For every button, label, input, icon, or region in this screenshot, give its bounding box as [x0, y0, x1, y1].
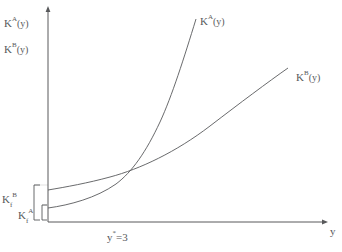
bracket-kfa — [42, 205, 47, 220]
curve-k-a — [48, 19, 196, 208]
curve-label-a-base: K — [200, 15, 208, 27]
kfa-superscript: A — [28, 207, 33, 215]
kfb-base: K — [2, 193, 10, 205]
ystar-value: =3 — [116, 231, 128, 243]
y-axis-arrowhead — [46, 6, 51, 12]
kfa-base: K — [18, 209, 26, 221]
cost-curves-plot — [0, 0, 342, 252]
curve-label-b-argument: (y) — [309, 72, 321, 83]
x-axis-label: y — [330, 226, 336, 237]
kfb-superscript: B — [12, 191, 17, 199]
figure-canvas: KA(y) KB(y) KA(y) KB(y) KfB KfA y*=3 y — [0, 0, 342, 252]
curve-label-k-a: KA(y) — [200, 12, 225, 28]
curve-k-b — [48, 68, 288, 190]
curve-label-k-b: KB(y) — [296, 68, 320, 84]
legend-item-k-a: KA(y) — [4, 14, 29, 30]
kfa-subscript: f — [26, 217, 28, 225]
x-axis-arrowhead — [322, 220, 328, 225]
legend-ka-base: K — [4, 17, 12, 29]
bracket-label-kfb: KfB — [2, 190, 17, 206]
x-axis-label-text: y — [330, 225, 336, 237]
x-tick-annotation-y-star: y*=3 — [107, 228, 128, 244]
curve-label-a-argument: (y) — [213, 16, 225, 27]
bracket-label-kfa: KfA — [18, 206, 33, 222]
legend-kb-base: K — [4, 43, 12, 55]
legend-ka-argument: (y) — [17, 18, 29, 29]
legend-item-k-b: KB(y) — [4, 40, 28, 56]
legend-kb-argument: (y) — [17, 44, 29, 55]
kfb-subscript: f — [10, 201, 12, 209]
curve-label-b-base: K — [296, 71, 304, 83]
bracket-kfb — [34, 185, 40, 220]
